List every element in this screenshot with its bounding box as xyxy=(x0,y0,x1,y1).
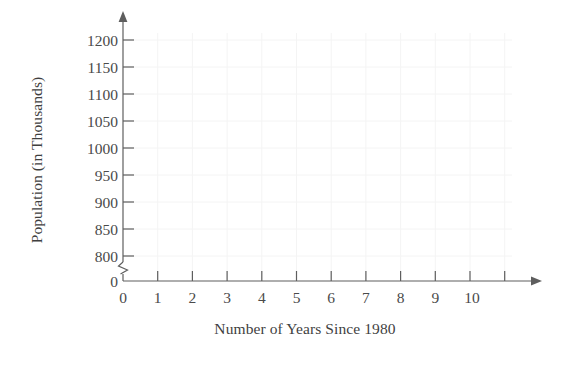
x-tick-label: 6 xyxy=(327,289,335,306)
y-tick-label: 1100 xyxy=(88,86,119,103)
x-axis xyxy=(123,277,542,286)
x-tick-label: 4 xyxy=(258,289,266,306)
y-tick-label: 850 xyxy=(95,221,119,238)
y-tick-label: 1150 xyxy=(88,59,119,76)
x-tick-label: 1 xyxy=(154,289,162,306)
x-tick-label: 2 xyxy=(189,289,197,306)
y-axis xyxy=(119,11,128,281)
y-axis-tick-labels: 1200 1150 1100 1050 1000 950 900 850 800… xyxy=(87,32,118,291)
x-tick-label: 7 xyxy=(362,289,370,306)
y-tick-label: 1200 xyxy=(87,32,118,49)
gridlines-horizontal xyxy=(123,40,512,256)
x-tick-label: 8 xyxy=(397,289,405,306)
x-tick-label: 3 xyxy=(223,289,231,306)
y-tick-label: 950 xyxy=(95,167,119,184)
x-axis-tick-labels: 0 1 2 3 4 5 6 7 8 9 10 xyxy=(119,289,480,306)
y-origin-label: 0 xyxy=(110,273,118,290)
x-axis-ticks xyxy=(158,271,505,281)
y-axis-ticks xyxy=(123,40,134,256)
x-axis-arrow-icon xyxy=(531,277,542,286)
population-blank-graph: 1200 1150 1100 1050 1000 950 900 850 800… xyxy=(0,0,577,365)
x-tick-label: 10 xyxy=(464,289,480,306)
x-tick-label: 0 xyxy=(119,289,127,306)
y-axis-break-icon xyxy=(119,262,128,274)
y-tick-label: 800 xyxy=(95,248,119,265)
gridlines-vertical xyxy=(158,33,505,279)
y-axis-title: Population (in Thousands) xyxy=(28,77,46,244)
chart-container: 1200 1150 1100 1050 1000 950 900 850 800… xyxy=(0,0,577,365)
x-tick-label: 5 xyxy=(293,289,301,306)
x-axis-title: Number of Years Since 1980 xyxy=(214,320,395,337)
y-tick-label: 900 xyxy=(95,194,119,211)
y-tick-label: 1050 xyxy=(87,113,118,130)
x-tick-label: 9 xyxy=(431,289,439,306)
y-tick-label: 1000 xyxy=(87,140,118,157)
y-axis-arrow-icon xyxy=(119,11,128,22)
